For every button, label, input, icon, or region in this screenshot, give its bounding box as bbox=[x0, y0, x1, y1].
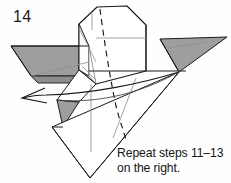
caption-block: Repeat steps 11–13 on the right. bbox=[117, 146, 229, 177]
caption-line-2: on the right. bbox=[117, 161, 229, 176]
origami-diagram-figure: 14 Repeat steps 11–13 on the right. bbox=[0, 0, 231, 183]
caption-line-1: Repeat steps 11–13 bbox=[117, 146, 229, 161]
right-wing-shaded-triangle bbox=[160, 37, 227, 72]
step-number: 14 bbox=[13, 9, 31, 25]
